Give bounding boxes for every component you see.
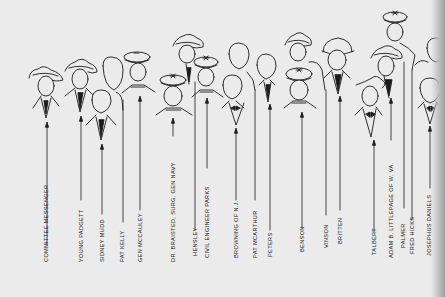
label-sidney-mudd: Sidney Mudd [99, 219, 105, 262]
figure-talbert [355, 76, 385, 137]
label-browning: Browning of N.J. [233, 200, 239, 258]
figure-vinson [285, 33, 325, 90]
figure-britten [322, 38, 354, 94]
figure-committee-messenger [29, 67, 63, 118]
label-fred-hicks: Fred Hicks [409, 217, 415, 254]
label-young-padgett: Young Padgett [78, 209, 84, 262]
label-palmer: Palmer [400, 223, 406, 248]
identification-key-diagram: Committee Messenger Young Padgett Sidney… [0, 0, 445, 297]
label-pat-mcarthur: Pat McArthur [252, 210, 258, 258]
label-hensley: Hensley [192, 227, 198, 256]
label-talbert: Talbert [371, 228, 377, 255]
label-benson: Benson [299, 226, 305, 252]
figure-peters [257, 54, 276, 102]
figure-benson [284, 68, 316, 108]
page-edge-shadow [431, 0, 445, 297]
figure-sidney-mudd [86, 90, 116, 140]
label-littlepage: Adam B. Littlepage of W. Va. [388, 163, 394, 258]
label-committee-messenger: Committee Messenger [43, 184, 49, 262]
label-britten: Britten [337, 218, 343, 244]
label-civil-engineer-parks: Civil Engineer Parks [204, 186, 210, 258]
figure-browning [222, 75, 244, 125]
label-pat-kelly: Pat Kelly [119, 230, 125, 262]
label-vinson: Vinson [323, 224, 329, 248]
label-peters: Peters [267, 233, 273, 257]
figure-outlines [0, 0, 445, 297]
figure-dr-braisted [156, 74, 192, 115]
label-dr-braisted: Dr. Braisted, Surg. Gen Navy [170, 162, 176, 262]
figure-civil-engineer-parks [192, 56, 223, 97]
label-gen-mccauley: Gen McCauley [137, 213, 143, 262]
figure-gen-mccauley [122, 52, 155, 93]
